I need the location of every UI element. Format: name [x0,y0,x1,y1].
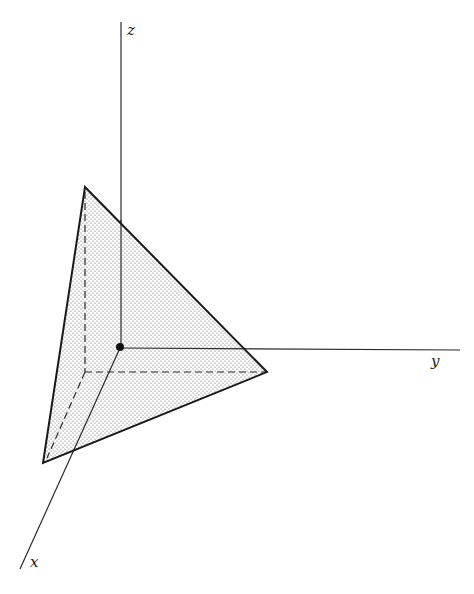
x-axis-label: x [30,553,39,571]
triangle-plane [43,187,267,463]
diagram-canvas: z y x [0,0,474,594]
origin-dot [116,343,124,351]
z-axis-label: z [126,21,135,39]
y-axis-label: y [430,352,440,370]
